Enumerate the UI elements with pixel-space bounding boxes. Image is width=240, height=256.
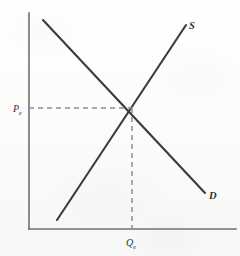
- supply-demand-figure: S D Pe Qe: [0, 0, 240, 256]
- supply-demand-plot: S D Pe Qe: [0, 0, 240, 256]
- demand-curve-label: D: [208, 190, 217, 201]
- supply-curve-label: S: [189, 20, 195, 31]
- equilibrium-quantity-label-subscript: e: [133, 243, 136, 250]
- equilibrium-price-label-subscript: e: [19, 109, 22, 116]
- demand-curve: [43, 20, 205, 193]
- equilibrium-quantity-label: Qe: [126, 237, 136, 250]
- equilibrium-price-label-base: P: [12, 103, 19, 114]
- equilibrium-price-label: Pe: [12, 103, 22, 116]
